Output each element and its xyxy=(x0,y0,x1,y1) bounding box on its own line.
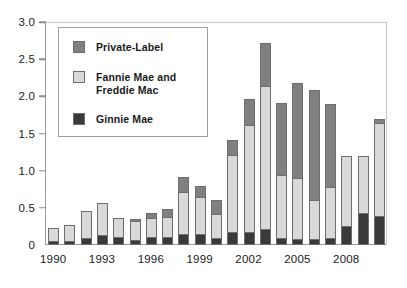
bar-segment-2005-ginnie-mae xyxy=(292,239,303,245)
bar-segment-2009-fannie-mae-and-freddie-mac xyxy=(358,156,369,213)
bar-segment-1997-fannie-mae-and-freddie-mac xyxy=(162,217,173,237)
bar-segment-1996-fannie-mae-and-freddie-mac xyxy=(146,218,157,237)
bar-segment-2008-ginnie-mae xyxy=(341,226,352,245)
bar-segment-1999-private-label xyxy=(195,186,206,196)
bar-segment-1993-fannie-mae-and-freddie-mac xyxy=(97,203,108,234)
bar-segment-1991-fannie-mae-and-freddie-mac xyxy=(64,225,75,241)
bar-2002 xyxy=(244,99,255,245)
bar-segment-2004-ginnie-mae xyxy=(276,238,287,245)
bar-segment-1997-private-label xyxy=(162,209,173,216)
bar-segment-1998-fannie-mae-and-freddie-mac xyxy=(178,192,189,234)
bar-segment-1995-fannie-mae-and-freddie-mac xyxy=(130,221,141,240)
bar-segment-2000-private-label xyxy=(211,200,222,213)
bar-segment-2000-fannie-mae-and-freddie-mac xyxy=(211,214,222,238)
x-axis-tick-label: 2005 xyxy=(284,253,310,265)
bar-2009 xyxy=(358,156,369,245)
bar-1992 xyxy=(81,211,92,245)
bar-1998 xyxy=(178,177,189,245)
bar-segment-1997-ginnie-mae xyxy=(162,237,173,245)
bar-segment-2007-private-label xyxy=(325,104,336,187)
legend-item-fannie-freddie: Fannie Mae and Freddie Mac xyxy=(73,71,176,96)
bar-2003 xyxy=(260,43,271,245)
bar-segment-2003-ginnie-mae xyxy=(260,229,271,245)
bar-segment-1991-ginnie-mae xyxy=(64,241,75,245)
bar-segment-2007-ginnie-mae xyxy=(325,238,336,245)
bar-segment-2005-fannie-mae-and-freddie-mac xyxy=(292,178,303,239)
bar-segment-1999-ginnie-mae xyxy=(195,234,206,245)
bar-segment-2006-fannie-mae-and-freddie-mac xyxy=(309,200,320,239)
x-axis-tick-label: 1999 xyxy=(187,253,213,265)
bar-segment-1990-ginnie-mae xyxy=(48,241,59,245)
bar-segment-2008-fannie-mae-and-freddie-mac xyxy=(341,156,352,226)
bar-2010 xyxy=(374,119,385,245)
bar-1991 xyxy=(64,225,75,245)
bar-segment-1992-fannie-mae-and-freddie-mac xyxy=(81,211,92,239)
chart-root: 00.51.01.52.02.53.0 19901993199619992002… xyxy=(0,0,407,288)
bar-1997 xyxy=(162,209,173,245)
bar-segment-1993-ginnie-mae xyxy=(97,235,108,245)
bar-1995 xyxy=(130,219,141,245)
x-axis-tick-label: 2002 xyxy=(235,253,261,265)
y-axis-tick-label: 3.0 xyxy=(1,16,35,28)
bar-segment-2006-ginnie-mae xyxy=(309,239,320,245)
x-axis-tick-label: 1996 xyxy=(138,253,164,265)
bar-segment-2005-private-label xyxy=(292,83,303,178)
bar-segment-2007-fannie-mae-and-freddie-mac xyxy=(325,187,336,238)
bar-2005 xyxy=(292,83,303,245)
bar-2008 xyxy=(341,156,352,245)
bar-segment-1998-ginnie-mae xyxy=(178,234,189,245)
y-axis-tick-label: 1.5 xyxy=(1,128,35,140)
bar-segment-1994-fannie-mae-and-freddie-mac xyxy=(113,218,124,237)
bar-segment-2002-private-label xyxy=(244,99,255,125)
bar-2007 xyxy=(325,104,336,245)
legend-label-ginnie-mae: Ginnie Mae xyxy=(96,113,153,126)
bar-2004 xyxy=(276,103,287,245)
bar-1994 xyxy=(113,218,124,245)
bar-segment-2004-fannie-mae-and-freddie-mac xyxy=(276,175,287,238)
bar-segment-1998-private-label xyxy=(178,177,189,192)
bar-segment-2002-fannie-mae-and-freddie-mac xyxy=(244,125,255,232)
bar-segment-2009-ginnie-mae xyxy=(358,213,369,245)
legend-item-ginnie-mae: Ginnie Mae xyxy=(73,113,153,126)
legend-swatch-private-label xyxy=(73,41,85,53)
bar-segment-1995-ginnie-mae xyxy=(130,240,141,245)
bar-2000 xyxy=(211,200,222,245)
bar-segment-2001-ginnie-mae xyxy=(227,232,238,245)
bar-segment-2002-ginnie-mae xyxy=(244,232,255,245)
bar-1996 xyxy=(146,213,157,245)
y-axis-tick-label: 1.0 xyxy=(1,165,35,177)
y-axis-tick-label: 0 xyxy=(1,239,35,251)
bar-segment-2010-ginnie-mae xyxy=(374,216,385,245)
bar-segment-2010-fannie-mae-and-freddie-mac xyxy=(374,123,385,216)
bar-segment-1996-ginnie-mae xyxy=(146,237,157,245)
bar-1990 xyxy=(48,228,59,245)
legend-label-fannie-freddie: Fannie Mae and Freddie Mac xyxy=(96,71,176,96)
legend-swatch-fannie-freddie xyxy=(73,71,85,83)
bar-segment-1992-ginnie-mae xyxy=(81,238,92,245)
bar-segment-1990-fannie-mae-and-freddie-mac xyxy=(48,228,59,241)
bar-segment-2001-private-label xyxy=(227,140,238,155)
legend-item-private-label: Private-Label xyxy=(73,41,163,54)
x-axis-tick-label: 1990 xyxy=(40,253,66,265)
y-axis-tick-label: 2.0 xyxy=(1,90,35,102)
legend-swatch-ginnie-mae xyxy=(73,113,85,125)
legend-label-private-label: Private-Label xyxy=(96,41,163,54)
bar-segment-2001-fannie-mae-and-freddie-mac xyxy=(227,155,238,232)
bar-segment-2003-fannie-mae-and-freddie-mac xyxy=(260,86,271,229)
x-axis-tick-label: 2008 xyxy=(333,253,359,265)
bar-1993 xyxy=(97,203,108,245)
x-axis-tick-label: 1993 xyxy=(89,253,115,265)
bar-segment-1999-fannie-mae-and-freddie-mac xyxy=(195,197,206,234)
bar-2001 xyxy=(227,140,238,245)
bar-segment-2000-ginnie-mae xyxy=(211,238,222,245)
bar-segment-2003-private-label xyxy=(260,43,271,86)
y-axis-tick-label: 0.5 xyxy=(1,202,35,214)
bar-segment-2004-private-label xyxy=(276,103,287,175)
bar-segment-2006-private-label xyxy=(309,90,320,199)
bar-2006 xyxy=(309,90,320,245)
bar-1999 xyxy=(195,186,206,245)
bar-segment-1994-ginnie-mae xyxy=(113,237,124,245)
legend: Private-Label Fannie Mae and Freddie Mac… xyxy=(58,27,208,137)
y-axis-tick-label: 2.5 xyxy=(1,53,35,65)
